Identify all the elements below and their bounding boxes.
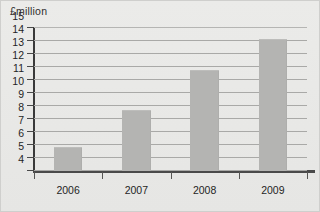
x-tick-mark xyxy=(239,172,240,179)
y-tick-label: 6 xyxy=(18,127,24,139)
y-tick-label: 7 xyxy=(18,114,24,126)
y-tick-label: 14 xyxy=(12,23,24,35)
x-tick-mark xyxy=(34,172,35,179)
gridline xyxy=(34,27,307,28)
y-tick-label: 11 xyxy=(13,62,24,74)
y-tick-mark xyxy=(27,170,33,171)
y-tick-mark xyxy=(27,131,33,132)
y-tick-mark xyxy=(27,157,33,158)
y-tick-mark xyxy=(27,105,33,106)
y-tick-label: 15 xyxy=(12,10,24,22)
y-tick-mark xyxy=(27,40,33,41)
plot-inner: 456789101112131415 2006200720082009 xyxy=(34,28,307,171)
y-tick-mark xyxy=(27,144,33,145)
y-tick-mark xyxy=(27,79,33,80)
y-tick-mark xyxy=(27,27,33,28)
x-tick-label-2006: 2006 xyxy=(56,184,79,196)
x-tick-label-2008: 2008 xyxy=(193,184,216,196)
bar-2006 xyxy=(54,147,83,171)
y-tick-mark xyxy=(27,66,33,67)
y-tick-label: 5 xyxy=(18,140,24,152)
bar-2008 xyxy=(190,70,219,171)
y-tick-label: 8 xyxy=(18,101,24,113)
y-tick-label: 13 xyxy=(12,36,24,48)
bar-chart: £million 456789101112131415 200620072008… xyxy=(0,0,320,212)
x-tick-mark xyxy=(171,172,172,179)
y-tick-label: 12 xyxy=(12,49,24,61)
x-tick-label-2009: 2009 xyxy=(261,184,284,196)
y-tick-label: 9 xyxy=(18,88,24,100)
y-tick-mark xyxy=(27,53,33,54)
plot-area: 456789101112131415 2006200720082009 xyxy=(34,28,307,171)
bar-2007 xyxy=(122,110,151,171)
x-tick-mark xyxy=(102,172,103,179)
y-tick-mark xyxy=(27,118,33,119)
x-tick-mark xyxy=(307,172,308,179)
y-tick-mark xyxy=(27,92,33,93)
bar-2009 xyxy=(259,39,288,171)
y-axis-line xyxy=(33,27,35,171)
x-tick-label-2007: 2007 xyxy=(125,184,148,196)
y-tick-label: 10 xyxy=(12,75,24,87)
y-tick-label: 4 xyxy=(18,153,24,165)
